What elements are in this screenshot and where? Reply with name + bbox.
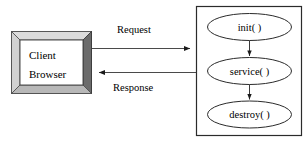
node-service-label: service( ) — [208, 66, 291, 77]
diagram-canvas: Client Browser Request Response init( ) … — [0, 0, 308, 151]
request-label: Request — [117, 24, 151, 35]
client-browser-box — [12, 32, 92, 94]
node-init-label: init( ) — [208, 22, 291, 33]
client-browser-label-line2: Browser — [29, 69, 66, 80]
response-label: Response — [113, 82, 153, 93]
client-browser-label-line1: Client — [29, 50, 56, 61]
node-destroy-label: destroy( ) — [208, 109, 291, 120]
